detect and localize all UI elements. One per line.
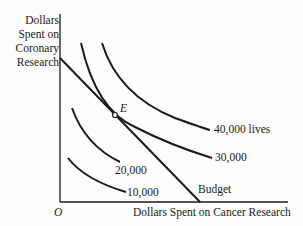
y-axis-label-line: Dollars: [16, 13, 59, 27]
curve-label-20000: 20,000: [115, 164, 147, 177]
budget-label: Budget: [198, 183, 231, 196]
y-axis-label-line: Spent on: [16, 27, 59, 41]
y-axis-label: Dollars Spent on Coronary Research: [16, 13, 59, 69]
y-axis-label-line: Coronary: [16, 41, 59, 55]
y-axis-label-line: Research: [16, 55, 59, 69]
x-axis-label: Dollars Spent on Cancer Research: [133, 206, 291, 219]
equilibrium-point: [113, 113, 118, 118]
curve-label-30000: 30,000: [215, 151, 247, 164]
curve-label-10000: 10,000: [127, 186, 159, 199]
equilibrium-label: E: [120, 102, 127, 115]
origin-label: O: [54, 206, 62, 219]
curve-label-40000: 40,000 lives: [214, 123, 270, 136]
budget-line: [60, 58, 200, 202]
